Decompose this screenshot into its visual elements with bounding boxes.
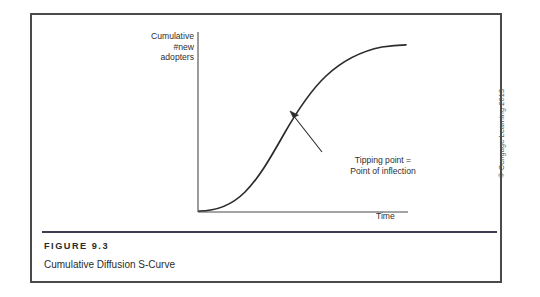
y-axis-label: Cumulative #new adopters xyxy=(124,31,194,63)
chart-plot-area: Cumulative #new adopters Time Tipping po… xyxy=(32,15,500,220)
copyright-credit: © Cengage Learning 2013 xyxy=(497,89,506,178)
s-curve-chart xyxy=(32,15,500,220)
x-axis-label: Time xyxy=(376,211,395,222)
tipping-point-annotation-label: Tipping point = Point of inflection xyxy=(319,155,447,177)
figure-frame: Cumulative #new adopters Time Tipping po… xyxy=(30,13,502,283)
annotation-leader-line xyxy=(293,115,322,152)
figure-number-label: FIGURE 9.3 xyxy=(44,241,109,251)
figure-caption-text: Cumulative Diffusion S-Curve xyxy=(44,259,175,270)
caption-divider xyxy=(42,231,497,233)
